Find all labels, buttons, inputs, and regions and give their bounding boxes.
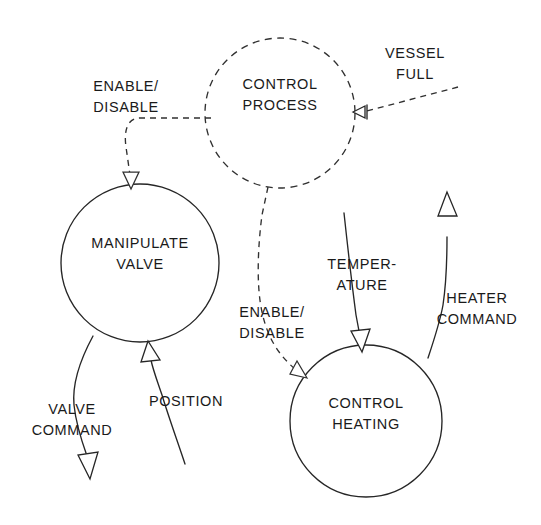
flow-valve-command[interactable]: VALVE COMMAND [32,336,113,479]
flow-enable-disable-heating[interactable]: ENABLE/ DISABLE [239,187,307,378]
control-process-label-line1: CONTROL [242,76,317,92]
temperature-arrowhead [351,329,370,352]
heater-command-label-line2: COMMAND [437,311,518,327]
valve-command-label-line1: VALVE [48,401,96,417]
data-flow-diagram: CONTROL PROCESS MANIPULATE VALVE CONTROL… [0,0,541,525]
enable-disable-heating-line [258,187,295,369]
enable-disable-heating-label-line1: ENABLE/ [239,304,305,320]
manipulate-valve-label-line2: VALVE [116,256,164,272]
flow-position[interactable]: POSITION [141,341,223,464]
enable-disable-valve-arrowhead [123,172,139,189]
process-control-heating[interactable]: CONTROL HEATING [290,345,442,497]
temperature-label-line1: TEMPER- [327,256,396,272]
flow-vessel-full[interactable]: VESSEL FULL [353,45,458,119]
valve-command-arrowhead [78,452,98,479]
control-process-circle [205,38,355,188]
flow-enable-disable-valve[interactable]: ENABLE/ DISABLE [93,78,211,189]
valve-command-label-line2: COMMAND [32,422,113,438]
control-heating-label-line2: HEATING [332,416,400,432]
temperature-line [344,213,359,331]
temperature-label-line2: ATURE [336,277,387,293]
vessel-full-line [367,87,458,111]
heater-command-arrowhead [438,192,457,216]
control-heating-label-line1: CONTROL [328,395,403,411]
valve-command-line [74,336,93,456]
control-process-label-line2: PROCESS [242,97,317,113]
enable-disable-valve-label-line2: DISABLE [93,99,158,115]
enable-disable-valve-line [125,118,211,175]
manipulate-valve-label-line1: MANIPULATE [91,235,189,251]
heater-command-label-line1: HEATER [446,290,507,306]
flow-temperature[interactable]: TEMPER- ATURE [327,213,396,352]
diagram-canvas: CONTROL PROCESS MANIPULATE VALVE CONTROL… [0,0,541,525]
position-arrowhead [141,341,160,362]
process-control-process[interactable]: CONTROL PROCESS [205,38,355,188]
position-label: POSITION [149,393,223,409]
enable-disable-heating-label-line2: DISABLE [239,325,304,341]
heater-command-line [428,237,447,358]
position-line [151,360,185,464]
enable-disable-heating-arrowhead [290,361,307,378]
process-manipulate-valve[interactable]: MANIPULATE VALVE [61,184,219,342]
flow-heater-command[interactable]: HEATER COMMAND [428,192,517,358]
vessel-full-label-line1: VESSEL [385,45,445,61]
enable-disable-valve-label-line1: ENABLE/ [93,78,159,94]
vessel-full-label-line2: FULL [396,66,434,82]
